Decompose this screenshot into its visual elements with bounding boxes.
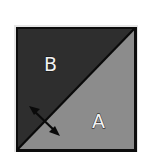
label-a: A (92, 110, 105, 132)
region-diagram: B A (0, 0, 154, 152)
label-b: B (44, 53, 57, 75)
